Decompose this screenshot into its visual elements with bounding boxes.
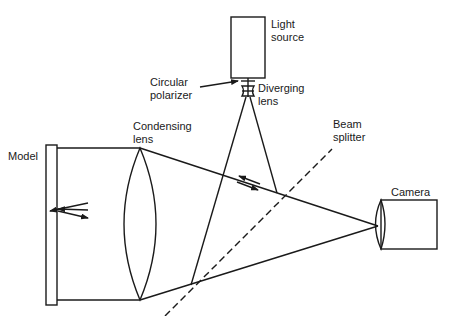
condensing-lens [124, 148, 156, 300]
model-incident-reflected-arrows [50, 203, 88, 218]
light-source-label-1: Light [271, 18, 295, 30]
optical-diagram: Light source Circular polarizer Divergin… [0, 0, 454, 316]
illumination-rays [191, 97, 277, 285]
condensing-lens-label-1: Condensing [133, 120, 192, 132]
diverging-lens-label-2: lens [258, 95, 279, 107]
model-lens-rays [57, 148, 140, 300]
camera [376, 200, 438, 249]
beam-splitter-label-1: Beam [333, 118, 362, 130]
condensing-lens-label-2: lens [133, 133, 154, 145]
beam-splitter [165, 149, 332, 316]
circular-polarizer-label-2: polarizer [150, 89, 193, 101]
camera-label: Camera [391, 186, 431, 198]
model [46, 145, 57, 305]
beam-splitter-label-2: splitter [333, 131, 366, 143]
polarizer-pointer [200, 81, 238, 87]
light-source [231, 17, 265, 78]
circular-polarizer-label-1: Circular [150, 76, 188, 88]
model-label: Model [8, 150, 38, 162]
diverging-lens-label-1: Diverging [258, 82, 304, 94]
lens-camera-rays [140, 148, 378, 300]
light-source-label-2: source [271, 31, 304, 43]
